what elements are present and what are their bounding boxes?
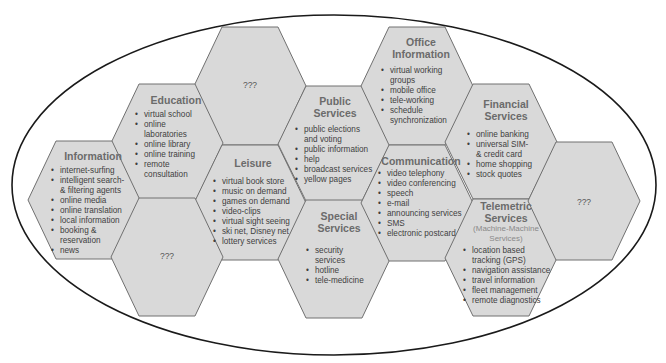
public-services-block: Public Services public elections and vot…: [294, 95, 386, 213]
list-item: fleet management: [462, 286, 558, 296]
telemetric-services-block: Telemetric Services (Machine-Machine Ser…: [462, 200, 558, 318]
telemetric-services-list: location based tracking (GPS) navigation…: [462, 246, 558, 306]
list-item: news: [50, 246, 136, 256]
list-item: online media: [50, 196, 136, 206]
list-item: intelligent search- & filtering agents: [50, 176, 136, 196]
list-item: public elections and voting: [294, 125, 386, 145]
education-list: virtual school online laboratories onlin…: [134, 110, 218, 180]
list-item: location based tracking (GPS): [462, 246, 558, 266]
leisure-list: virtual book store music on demand games…: [212, 177, 304, 247]
list-item: home shopping: [466, 160, 550, 170]
financial-services-block: Financial Services online banking univer…: [466, 98, 550, 216]
list-item: virtual school: [134, 110, 218, 120]
list-item: online laboratories: [134, 120, 218, 140]
list-item: remote diagnostics: [462, 296, 558, 306]
financial-services-title: Financial Services: [462, 98, 550, 122]
special-services-title: Special Services: [293, 210, 385, 234]
list-item: lottery services: [212, 237, 304, 247]
list-item: speech: [377, 189, 473, 199]
information-title: Information: [50, 150, 136, 162]
list-item: virtual working groups: [380, 66, 466, 86]
list-item: tele-medicine: [305, 276, 385, 286]
communication-title: Communication: [369, 155, 473, 167]
list-item: yellow pages: [294, 175, 386, 185]
list-item: security services: [305, 246, 385, 266]
list-item: video telephony: [377, 169, 473, 179]
list-item: online translation: [50, 206, 136, 216]
special-services-list: security services hotline tele-medicine: [305, 246, 385, 286]
list-item: virtual sight seeing: [212, 217, 304, 227]
list-item: universal SIM- & credit card: [466, 140, 550, 160]
list-item: public information: [294, 145, 386, 155]
list-item: navigation assistance: [462, 266, 558, 276]
telemetric-services-subtitle: (Machine-Machine Services): [454, 224, 558, 244]
leisure-block: Leisure virtual book store music on dema…: [212, 157, 304, 275]
list-item: tele-working: [380, 96, 466, 106]
telemetric-services-title: Telemetric Services: [454, 200, 558, 224]
diagram-canvas: ??? ??? ??? Information internet-surfing…: [0, 0, 666, 363]
unknown-top-label: ???: [194, 80, 306, 90]
list-item: video conferencing: [377, 179, 473, 189]
office-information-list: virtual working groups mobile office tel…: [380, 66, 466, 126]
office-information-title: Office Information: [376, 36, 466, 60]
public-services-title: Public Services: [284, 95, 386, 119]
list-item: ski net, Disney net: [212, 227, 304, 237]
list-item: music on demand: [212, 187, 304, 197]
special-services-block: Special Services security services hotli…: [305, 210, 385, 328]
list-item: virtual book store: [212, 177, 304, 187]
financial-services-list: online banking universal SIM- & credit c…: [466, 130, 550, 180]
office-information-block: Office Information virtual working group…: [380, 36, 466, 154]
list-item: internet-surfing: [50, 166, 136, 176]
leisure-title: Leisure: [202, 157, 304, 169]
list-item: online banking: [466, 130, 550, 140]
list-item: mobile office: [380, 86, 466, 96]
list-item: travel information: [462, 276, 558, 286]
education-block: Education virtual school online laborato…: [134, 94, 218, 212]
information-list: internet-surfing intelligent search- & f…: [50, 166, 136, 256]
information-block: Information internet-surfing intelligent…: [50, 150, 136, 268]
list-item: local information: [50, 216, 136, 226]
list-item: schedule synchronization: [380, 106, 466, 126]
list-item: online library: [134, 140, 218, 150]
list-item: stock quotes: [466, 170, 550, 180]
list-item: booking & reservation: [50, 226, 136, 246]
education-title: Education: [134, 94, 218, 106]
list-item: hotline: [305, 266, 385, 276]
list-item: video-clips: [212, 207, 304, 217]
list-item: games on demand: [212, 197, 304, 207]
